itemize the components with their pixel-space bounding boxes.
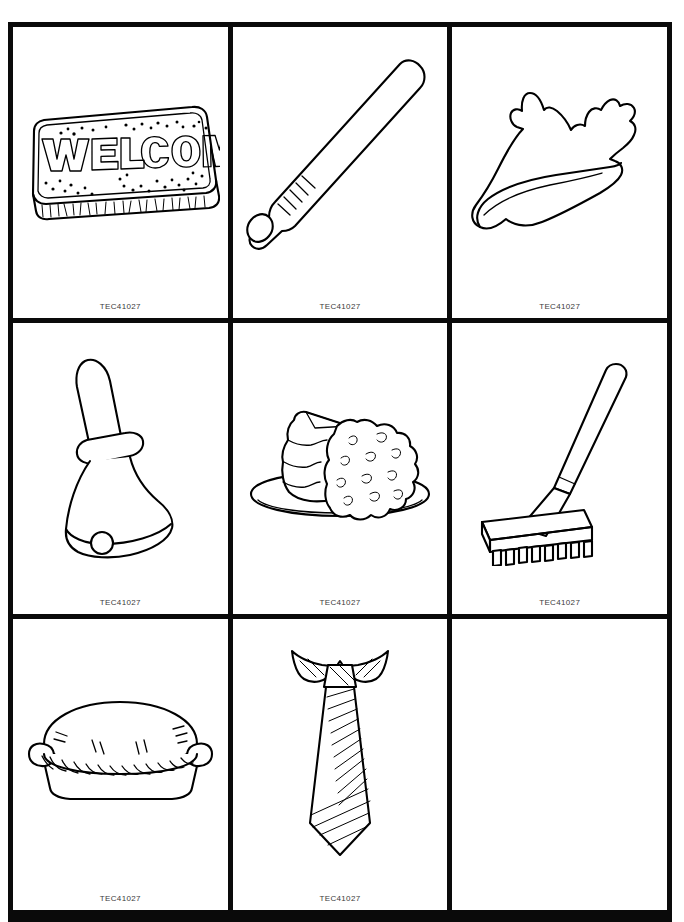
pie-icon <box>13 619 228 884</box>
hand-bell-icon <box>13 323 228 588</box>
clipart-cell-4[interactable]: TEC41027 <box>13 323 228 614</box>
empty-cell-placeholder <box>452 619 667 884</box>
clipart-cell-5[interactable]: TEC41027 <box>233 323 448 614</box>
cell-caption: TEC41027 <box>233 302 448 311</box>
clipart-cell-3[interactable]: TEC41027 <box>452 27 667 318</box>
clipart-cell-8[interactable]: TEC41027 <box>233 619 448 910</box>
garden-rake-icon <box>452 323 667 588</box>
cell-caption: TEC41027 <box>233 894 448 903</box>
clipart-cell-2[interactable]: TEC41027 <box>233 27 448 318</box>
cell-caption: TEC41027 <box>13 894 228 903</box>
necktie-icon <box>233 619 448 884</box>
clipart-cell-1[interactable]: TEC41027 <box>13 27 228 318</box>
welcome-mat-icon <box>13 27 228 292</box>
clipart-grid: TEC41027 <box>8 22 672 922</box>
cell-caption: TEC41027 <box>452 598 667 607</box>
page-header-faint-text <box>0 0 684 12</box>
clipart-cell-9[interactable] <box>452 619 667 910</box>
conch-shell-icon <box>452 27 667 292</box>
clipart-cell-7[interactable]: TEC41027 <box>13 619 228 910</box>
cell-caption: TEC41027 <box>13 598 228 607</box>
clipart-cell-6[interactable]: TEC41027 <box>452 323 667 614</box>
layer-cake-icon <box>233 323 448 588</box>
cell-caption: TEC41027 <box>452 302 667 311</box>
cell-caption: TEC41027 <box>233 598 448 607</box>
cell-caption: TEC41027 <box>13 302 228 311</box>
baseball-bat-icon <box>233 27 448 292</box>
